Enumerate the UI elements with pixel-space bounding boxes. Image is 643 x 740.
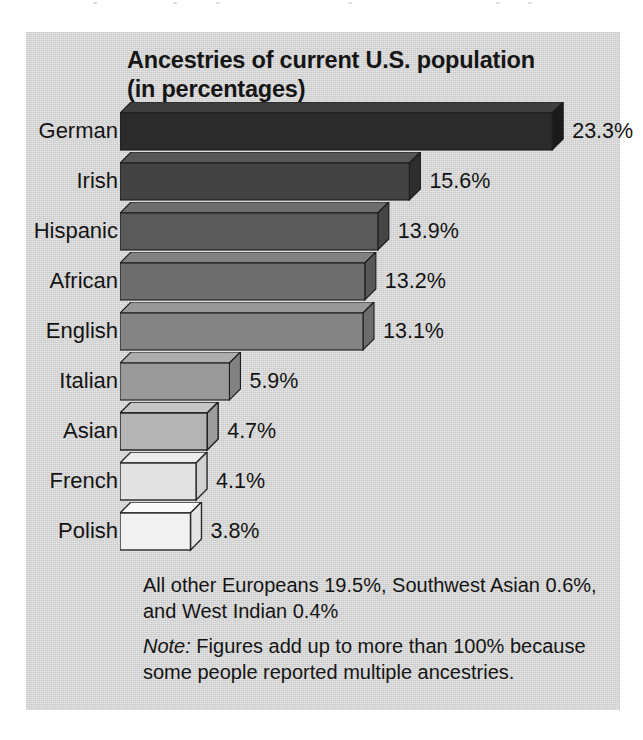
bar-category-label-asian: Asian: [0, 418, 118, 444]
footnote-note: Note: Figures add up to more than 100% b…: [143, 633, 603, 685]
bar-row: French4.1%: [26, 452, 620, 502]
footnote-note-label: Note:: [143, 635, 191, 657]
bar-category-label-african: African: [0, 268, 118, 294]
bar-value-label-asian: 4.7%: [227, 419, 276, 444]
bar-hispanic: [120, 202, 391, 252]
bar-category-label-german: German: [0, 118, 118, 144]
bar-row: German23.3%: [26, 102, 620, 152]
bar-category-label-hispanic: Hispanic: [0, 218, 118, 244]
bar-italian: [120, 352, 242, 402]
bar-polish: [120, 502, 203, 552]
bar-category-label-italian: Italian: [0, 368, 118, 394]
bar-french: [120, 452, 209, 502]
bar-value-label-irish: 15.6%: [429, 169, 490, 194]
bar-value-label-african: 13.2%: [385, 269, 446, 294]
bar-irish: [120, 152, 422, 202]
bar-row: African13.2%: [26, 252, 620, 302]
bar-row: Irish15.6%: [26, 152, 620, 202]
bar-german: [120, 102, 565, 152]
figure-panel: Ancestries of current U.S. population (i…: [26, 32, 620, 710]
footnote-other-ancestries: All other Europeans 19.5%, Southwest Asi…: [143, 572, 603, 624]
footnote-note-text: Figures add up to more than 100% because…: [143, 635, 586, 683]
bar-category-label-irish: Irish: [0, 168, 118, 194]
bar-row: Polish3.8%: [26, 502, 620, 552]
bar-row: English13.1%: [26, 302, 620, 352]
bar-value-label-italian: 5.9%: [249, 369, 298, 394]
bar-value-label-hispanic: 13.9%: [398, 219, 459, 244]
bar-asian: [120, 402, 220, 452]
bar-value-label-german: 23.3%: [572, 119, 633, 144]
bar-african: [120, 252, 378, 302]
bar-row: Asian4.7%: [26, 402, 620, 452]
bar-category-label-english: English: [0, 318, 118, 344]
bar-row: Italian5.9%: [26, 352, 620, 402]
bar-category-label-french: French: [0, 468, 118, 494]
bar-english: [120, 302, 376, 352]
bar-value-label-polish: 3.8%: [210, 519, 259, 544]
bar-value-label-french: 4.1%: [216, 469, 265, 494]
bar-value-label-english: 13.1%: [383, 319, 444, 344]
bar-category-label-polish: Polish: [0, 518, 118, 544]
scan-artifact: [0, 0, 643, 12]
bar-row: Hispanic13.9%: [26, 202, 620, 252]
